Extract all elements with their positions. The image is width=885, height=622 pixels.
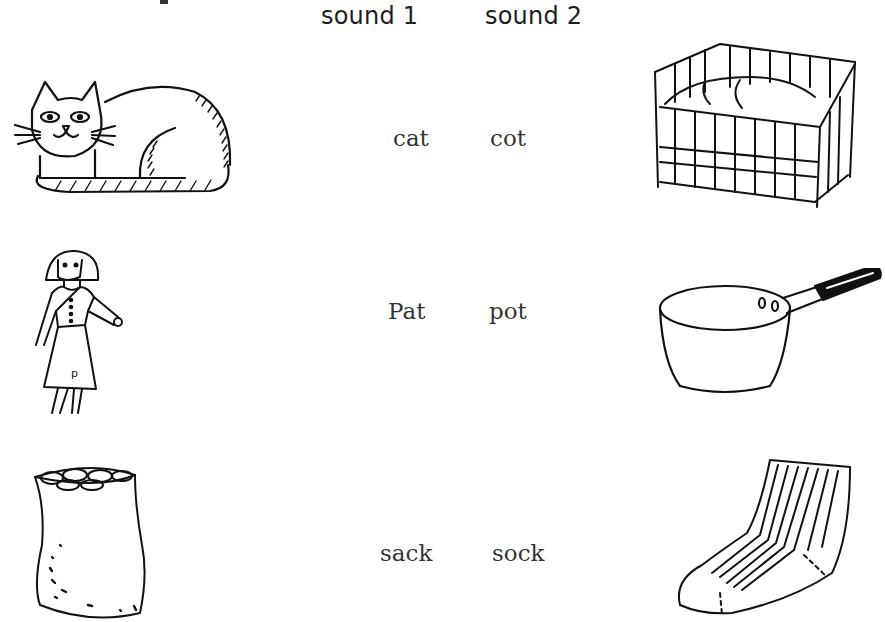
svg-text:p: p: [71, 367, 78, 380]
word-sock: sock: [492, 540, 544, 566]
word-sack: sack: [380, 540, 432, 566]
cropped-text-fragment: [160, 0, 168, 4]
word-pat: Pat: [388, 298, 425, 324]
sound-2-heading: sound 2: [485, 2, 582, 30]
word-pot: pot: [489, 298, 527, 324]
word-cot: cot: [490, 125, 526, 151]
sock-illustration: [672, 455, 857, 620]
cot-illustration: [650, 42, 865, 217]
word-cat: cat: [393, 125, 429, 151]
girl-pat-illustration: p: [30, 245, 130, 420]
saucepan-illustration: [655, 268, 885, 398]
sound-1-heading: sound 1: [321, 2, 418, 30]
sack-illustration: [30, 465, 155, 620]
cat-illustration: [10, 70, 235, 195]
